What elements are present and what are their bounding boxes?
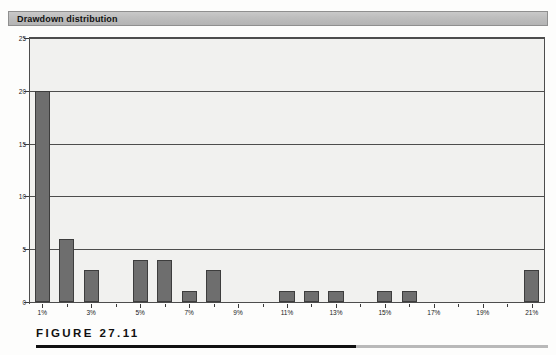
x-axis-tick-minor: [311, 304, 312, 307]
x-axis-tick-minor: [165, 304, 166, 307]
x-axis-tick-label: 9%: [233, 309, 242, 316]
y-axis-tick: [24, 144, 29, 145]
caption-rule: [36, 345, 356, 348]
x-axis: 1%3%5%7%9%11%13%15%17%19%21%: [29, 304, 545, 320]
x-axis-tick-minor: [214, 304, 215, 307]
bar: [279, 291, 294, 302]
x-axis-tick-label: 3%: [86, 309, 95, 316]
bar: [304, 291, 319, 302]
x-axis-tick: [91, 304, 92, 308]
bar: [206, 270, 221, 302]
figure-caption: FIGURE 27.11: [36, 327, 140, 339]
x-axis-tick-minor: [360, 304, 361, 307]
x-axis-tick: [238, 304, 239, 308]
x-axis-tick-minor: [409, 304, 410, 307]
bar: [133, 260, 148, 302]
y-axis-tick-label: 0: [6, 299, 26, 306]
bar: [59, 239, 74, 302]
y-axis-labels: 0510152025: [0, 30, 26, 320]
x-axis-tick-label: 19%: [476, 309, 489, 316]
x-axis-tick-label: 17%: [427, 309, 440, 316]
bar: [182, 291, 197, 302]
x-axis-tick-label: 1%: [38, 309, 47, 316]
bar: [328, 291, 343, 302]
x-axis-tick-minor: [263, 304, 264, 307]
x-axis-tick-label: 7%: [184, 309, 193, 316]
y-axis-tick-label: 15: [6, 141, 26, 148]
x-axis-tick: [385, 304, 386, 308]
x-axis-tick: [483, 304, 484, 308]
panel-title-bar: Drawdown distribution: [8, 11, 548, 26]
x-axis-tick: [434, 304, 435, 308]
y-axis-tick: [24, 249, 29, 250]
y-axis-tick: [24, 38, 29, 39]
x-axis-tick-label: 11%: [281, 309, 294, 316]
bar-series: [30, 38, 544, 302]
x-axis-tick-minor: [458, 304, 459, 307]
x-axis-tick-label: 5%: [135, 309, 144, 316]
y-axis-tick-label: 20: [6, 88, 26, 95]
y-axis-tick-label: 25: [6, 35, 26, 42]
y-axis-tick-label: 10: [6, 193, 26, 200]
x-axis-tick: [189, 304, 190, 308]
x-axis-tick: [42, 304, 43, 308]
x-axis-tick-label: 15%: [378, 309, 391, 316]
x-axis-tick-minor: [67, 304, 68, 307]
x-axis-tick: [336, 304, 337, 308]
x-axis-tick-label: 13%: [329, 309, 342, 316]
drawdown-distribution-chart: 0510152025 1%3%5%7%9%11%13%15%17%19%21%: [0, 30, 556, 320]
figure-page: Drawdown distribution 0510152025 1%3%5%7…: [0, 0, 556, 355]
y-axis-tick: [24, 91, 29, 92]
bar: [157, 260, 172, 302]
y-axis-tick-label: 5: [6, 246, 26, 253]
x-axis-tick: [287, 304, 288, 308]
bar: [377, 291, 392, 302]
caption-rule-tail: [356, 345, 548, 348]
panel-title: Drawdown distribution: [17, 13, 118, 26]
x-axis-tick: [140, 304, 141, 308]
bar: [35, 91, 50, 302]
x-axis-tick-minor: [507, 304, 508, 307]
bar: [84, 270, 99, 302]
x-axis-tick-minor: [116, 304, 117, 307]
x-axis-tick-label: 21%: [525, 309, 538, 316]
bar: [402, 291, 417, 302]
x-axis-tick: [532, 304, 533, 308]
y-axis-tick: [24, 196, 29, 197]
y-axis-tick: [24, 302, 29, 303]
bar: [524, 270, 539, 302]
